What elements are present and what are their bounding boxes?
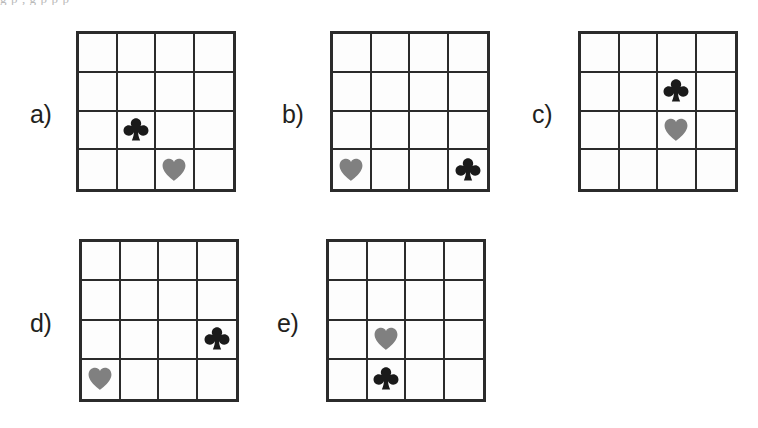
grid-cell-r4c1[interactable] xyxy=(581,150,620,189)
grid-cell-r4c2[interactable] xyxy=(121,360,160,399)
grid-cell-r2c4[interactable] xyxy=(198,281,237,320)
grid-e xyxy=(326,239,486,402)
club-icon xyxy=(663,78,689,104)
grid-cell-r4c1[interactable] xyxy=(79,150,118,189)
grid-cell-r3c2[interactable] xyxy=(620,112,659,151)
grid-cell-r3c4[interactable] xyxy=(195,112,234,151)
heart-icon xyxy=(87,366,113,392)
grid-cell-r1c1[interactable] xyxy=(79,34,118,73)
heart-icon xyxy=(373,326,399,352)
grid-cell-r4c2[interactable] xyxy=(118,150,157,189)
grid-cell-r3c3[interactable] xyxy=(410,112,449,151)
grid-cell-r1c4[interactable] xyxy=(697,34,736,73)
grid-cell-r4c4[interactable] xyxy=(445,360,484,399)
grid-cell-r2c2[interactable] xyxy=(620,73,659,112)
grid-cell-r3c3[interactable] xyxy=(159,321,198,360)
grid-cell-r4c1[interactable] xyxy=(82,360,121,399)
grid-cell-r4c3[interactable] xyxy=(658,150,697,189)
grid-cell-r3c1[interactable] xyxy=(79,112,118,151)
grid-cell-r2c1[interactable] xyxy=(581,73,620,112)
grid-cell-r3c3[interactable] xyxy=(406,321,445,360)
grid-cell-r2c3[interactable] xyxy=(156,73,195,112)
option-label: d) xyxy=(30,311,52,336)
grid-cell-r4c2[interactable] xyxy=(368,360,407,399)
grid-cell-r4c4[interactable] xyxy=(198,360,237,399)
grid-cell-r1c1[interactable] xyxy=(82,242,121,281)
grid-cell-r3c4[interactable] xyxy=(198,321,237,360)
option-label: e) xyxy=(277,311,299,336)
grid-cell-r2c4[interactable] xyxy=(195,73,234,112)
grid-cell-r1c4[interactable] xyxy=(445,242,484,281)
grid-cell-r3c4[interactable] xyxy=(697,112,736,151)
grid-cell-r3c1[interactable] xyxy=(333,112,372,151)
grid-cell-r3c1[interactable] xyxy=(329,321,368,360)
heart-icon xyxy=(338,157,364,183)
grid-cell-r2c4[interactable] xyxy=(445,281,484,320)
grid-cell-r2c2[interactable] xyxy=(118,73,157,112)
grid-cell-r1c1[interactable] xyxy=(581,34,620,73)
option-label: a) xyxy=(30,102,52,127)
heart-icon xyxy=(663,117,689,143)
grid-b xyxy=(330,31,490,192)
grid-cell-r1c4[interactable] xyxy=(198,242,237,281)
grid-cell-r3c2[interactable] xyxy=(121,321,160,360)
grid-cell-r1c3[interactable] xyxy=(156,34,195,73)
grid-cell-r1c2[interactable] xyxy=(368,242,407,281)
club-icon xyxy=(204,326,230,352)
club-icon xyxy=(373,366,399,392)
grid-cell-r2c2[interactable] xyxy=(372,73,411,112)
grid-cell-r1c2[interactable] xyxy=(372,34,411,73)
club-icon xyxy=(455,157,481,183)
grid-cell-r4c3[interactable] xyxy=(156,150,195,189)
grid-cell-r1c4[interactable] xyxy=(195,34,234,73)
grid-d xyxy=(79,239,239,402)
option-label: c) xyxy=(532,102,552,127)
grid-cell-r1c1[interactable] xyxy=(333,34,372,73)
grid-cell-r2c2[interactable] xyxy=(121,281,160,320)
grid-cell-r1c3[interactable] xyxy=(410,34,449,73)
grid-cell-r1c2[interactable] xyxy=(118,34,157,73)
grid-cell-r4c4[interactable] xyxy=(697,150,736,189)
grid-cell-r3c4[interactable] xyxy=(445,321,484,360)
grid-cell-r2c4[interactable] xyxy=(449,73,488,112)
grid-cell-r4c2[interactable] xyxy=(372,150,411,189)
grid-cell-r4c3[interactable] xyxy=(159,360,198,399)
grid-c xyxy=(578,31,738,192)
heart-icon xyxy=(161,157,187,183)
grid-cell-r2c3[interactable] xyxy=(406,281,445,320)
grid-cell-r2c1[interactable] xyxy=(79,73,118,112)
grid-cell-r4c1[interactable] xyxy=(329,360,368,399)
grid-a xyxy=(76,31,236,192)
grid-cell-r4c4[interactable] xyxy=(449,150,488,189)
grid-cell-r2c1[interactable] xyxy=(329,281,368,320)
grid-cell-r1c3[interactable] xyxy=(406,242,445,281)
grid-cell-r3c2[interactable] xyxy=(372,112,411,151)
grid-cell-r3c1[interactable] xyxy=(82,321,121,360)
grid-cell-r1c3[interactable] xyxy=(159,242,198,281)
grid-cell-r1c2[interactable] xyxy=(121,242,160,281)
grid-cell-r4c3[interactable] xyxy=(410,150,449,189)
grid-cell-r4c3[interactable] xyxy=(406,360,445,399)
grid-cell-r3c2[interactable] xyxy=(368,321,407,360)
cut-off-text-above-figure: g p , g p p p xyxy=(0,0,758,5)
grid-cell-r3c1[interactable] xyxy=(581,112,620,151)
grid-cell-r1c1[interactable] xyxy=(329,242,368,281)
option-label: b) xyxy=(282,102,304,127)
grid-cell-r4c1[interactable] xyxy=(333,150,372,189)
grid-cell-r2c1[interactable] xyxy=(82,281,121,320)
grid-cell-r2c2[interactable] xyxy=(368,281,407,320)
grid-cell-r2c3[interactable] xyxy=(410,73,449,112)
grid-cell-r1c2[interactable] xyxy=(620,34,659,73)
grid-cell-r2c1[interactable] xyxy=(333,73,372,112)
grid-cell-r3c3[interactable] xyxy=(156,112,195,151)
grid-cell-r3c3[interactable] xyxy=(658,112,697,151)
grid-cell-r3c4[interactable] xyxy=(449,112,488,151)
grid-cell-r2c3[interactable] xyxy=(159,281,198,320)
grid-cell-r4c2[interactable] xyxy=(620,150,659,189)
grid-cell-r1c3[interactable] xyxy=(658,34,697,73)
grid-cell-r2c4[interactable] xyxy=(697,73,736,112)
grid-cell-r4c4[interactable] xyxy=(195,150,234,189)
grid-cell-r3c2[interactable] xyxy=(118,112,157,151)
grid-cell-r2c3[interactable] xyxy=(658,73,697,112)
grid-cell-r1c4[interactable] xyxy=(449,34,488,73)
